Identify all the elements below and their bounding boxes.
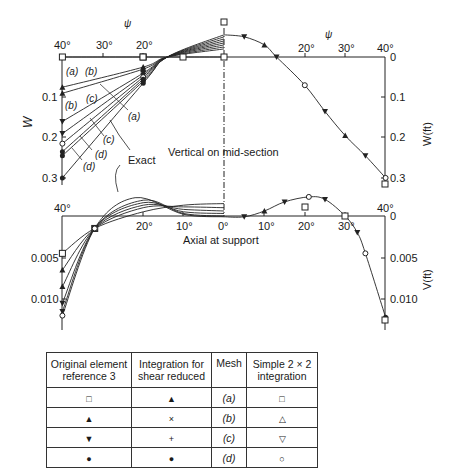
open-circle-icon: [60, 141, 65, 146]
open-circle-icon: [363, 251, 368, 256]
legend-row: ▼ + (c) ▽: [47, 428, 318, 448]
axial-at-support-label: Axial at support: [183, 234, 259, 246]
legend-header-row: Original element reference 3 Integration…: [47, 353, 318, 388]
tick-top-right-30: 30°: [338, 42, 355, 54]
open-square-icon: [342, 213, 348, 219]
filled-triangle-up-icon: [59, 284, 65, 290]
header-line: reference 3: [50, 370, 128, 382]
open-square-icon: [59, 54, 65, 60]
open-square-icon: □: [86, 395, 91, 404]
open-square-icon: [382, 317, 388, 323]
filled-triangle-down-icon: [59, 119, 65, 125]
marker-simple-c: ▽: [247, 428, 318, 448]
curve-tag-a-mid: (a): [128, 111, 140, 122]
curve-tag-b-left: (b): [65, 100, 77, 111]
filled-triangle-down-icon: ▼: [85, 435, 94, 444]
marker-reduced-b: ×: [132, 408, 212, 428]
tick-v-left-0.005: 0.005: [31, 252, 59, 264]
filled-triangle-down-icon: [322, 197, 328, 203]
filled-circle-icon: [141, 81, 146, 86]
header-mesh: Mesh: [212, 353, 247, 388]
marker-simple-b: △: [247, 408, 318, 428]
tick-bot-right-30: 30°: [338, 220, 355, 232]
tick-top-right-20: 20°: [298, 42, 315, 54]
filled-triangle-down-icon: [59, 131, 65, 137]
mesh-c: (c): [212, 428, 247, 448]
psi-label-right: ψ: [325, 29, 333, 40]
tick-w-right-0.1: 0.1: [390, 91, 405, 103]
header-line: integration: [250, 370, 314, 382]
tick-w-right-0.3: 0.3: [390, 172, 405, 184]
open-circle-icon: ○: [279, 455, 284, 464]
tick-top-left-40: 40°: [54, 39, 71, 51]
filled-circle-icon: [60, 175, 65, 180]
filled-triangle-up-icon: [59, 267, 65, 273]
curve-tag-d-lower: (d): [83, 161, 95, 172]
legend-row: □ ▲ (a) □: [47, 388, 318, 408]
open-square-icon: □: [279, 395, 284, 404]
header-line: shear reduced: [135, 370, 208, 382]
open-circle-icon: [306, 194, 311, 199]
header-line: Mesh: [215, 357, 243, 369]
filled-triangle-up-icon: [261, 42, 267, 48]
curve-tag-b-top: (b): [85, 66, 97, 77]
legend-table: Original element reference 3 Integration…: [46, 352, 318, 468]
w-ft-axis-label: W(ft): [421, 122, 433, 146]
tick-v-right-0: 0: [390, 210, 396, 222]
header-line: Original element: [50, 358, 128, 370]
mesh-d: (d): [212, 448, 247, 468]
marker-original-c: ▼: [47, 428, 132, 448]
marker-original-b: ▲: [47, 408, 132, 428]
mesh-b: (b): [212, 408, 247, 428]
tick-bot-left-40: 40°: [54, 202, 71, 214]
filled-triangle-up-icon: ▲: [85, 415, 94, 424]
curve-tag-c-lower: (c): [103, 134, 115, 145]
plus-icon: +: [169, 435, 174, 444]
header-integration-reduced: Integration for shear reduced: [132, 353, 212, 388]
legend-row: ● ● (d) ○: [47, 448, 318, 468]
tick-bot-right-20: 20°: [298, 220, 315, 232]
tick-w-right-0: 0: [390, 51, 396, 63]
open-square-icon: [221, 19, 227, 25]
marker-reduced-d: ●: [132, 448, 212, 468]
header-line: Simple 2 × 2: [250, 358, 314, 370]
v-ft-axis-label: V(ft): [421, 269, 433, 290]
figure-plots: ψ ψ 40° 30° 20° 20° 30° 40° 0.1 0.2 0.3 …: [0, 0, 453, 345]
tick-top-left-20: 20°: [136, 39, 153, 51]
tick-bot-right-10: 10°: [258, 220, 275, 232]
tick-w-left-0.2: 0.2: [42, 131, 57, 143]
filled-circle-icon: [60, 153, 65, 158]
open-square-icon: [382, 181, 388, 187]
tick-bot-left-0: 0°: [218, 220, 229, 232]
header-line: Integration for: [135, 358, 208, 370]
legend-row: ▲ × (b) △: [47, 408, 318, 428]
tick-v-right-0.010: 0.010: [390, 293, 418, 305]
filled-circle-icon: ●: [86, 455, 91, 464]
marker-reduced-a: ▲: [132, 388, 212, 408]
curve-tag-a-top: (a): [66, 66, 78, 77]
tick-w-left-0.3: 0.3: [42, 172, 57, 184]
filled-triangle-up-icon: [261, 208, 267, 214]
filled-triangle-up-icon: ▲: [167, 395, 176, 404]
tick-v-right-0.005: 0.005: [390, 252, 418, 264]
curve-c4: [62, 202, 224, 303]
filled-triangle-down-icon: [354, 230, 360, 236]
open-circle-icon: [383, 175, 388, 180]
psi-label-left: ψ: [124, 18, 132, 29]
open-circle-icon: [92, 226, 97, 231]
exact-pointers: [110, 120, 130, 192]
tick-bot-left-20: 20°: [136, 220, 153, 232]
open-square-icon: [140, 54, 146, 60]
tick-w-left-0.1: 0.1: [42, 91, 57, 103]
mesh-a: (a): [212, 388, 247, 408]
exact-label: Exact: [128, 154, 156, 166]
open-square-icon: [180, 54, 186, 60]
tick-v-left-0.010: 0.010: [31, 293, 59, 305]
open-circle-icon: [302, 83, 307, 88]
marker-simple-d: ○: [247, 448, 318, 468]
header-original-element: Original element reference 3: [47, 353, 132, 388]
header-simple-integration: Simple 2 × 2 integration: [247, 353, 318, 388]
cross-x-icon: ×: [169, 415, 174, 424]
vertical-on-mid-section-label: Vertical on mid-section: [168, 146, 279, 158]
filled-circle-icon: ●: [169, 455, 174, 464]
